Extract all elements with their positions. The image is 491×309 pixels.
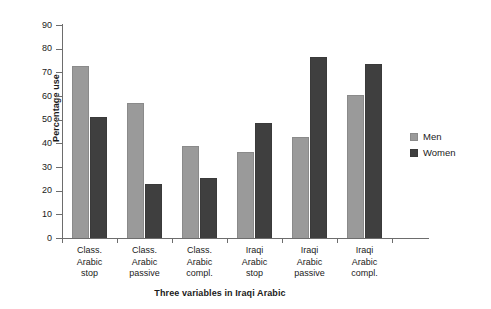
x-axis-category-label: IraqiArabiccompl. [333,245,397,280]
y-axis-tick-label: 90 [26,21,52,30]
y-axis-tick-label: 40 [26,139,52,148]
legend-swatch-men-icon [410,133,418,141]
x-axis-tick [62,238,63,243]
bar-men-6 [347,95,364,238]
bar-chart-figure: Percentage use 9080706050403020100 Class… [0,0,491,309]
y-axis-tick-label: 10 [26,210,52,219]
legend-swatch-women-icon [410,149,418,157]
legend-item-men: Men [410,129,456,145]
chart-legend: Men Women [410,129,456,161]
category-label-line: Iraqi [333,245,397,257]
bar-men-5 [292,137,309,238]
legend-label-men: Men [423,132,441,142]
y-axis-tick-label: 60 [26,92,52,101]
category-label-line: compl. [333,268,397,280]
bar-women-1 [90,117,107,238]
legend-label-women: Women [423,148,456,158]
x-axis-tick [227,238,228,243]
x-axis-tick [337,238,338,243]
y-axis-tick-label: 50 [26,115,52,124]
category-label-line: Arabic [333,257,397,269]
y-axis-tick-label: 0 [26,234,52,243]
bar-women-2 [145,184,162,238]
x-axis-tick [392,238,393,243]
y-axis-title: Percentage use [51,53,61,163]
plot-area [62,25,392,238]
bar-women-6 [365,64,382,238]
bar-men-2 [127,103,144,238]
bar-men-1 [72,66,89,238]
x-axis-title: Three variables in Iraqi Arabic [0,288,440,298]
x-axis-tick [117,238,118,243]
bar-men-3 [182,146,199,238]
y-axis-tick-label: 30 [26,163,52,172]
x-axis-tick [282,238,283,243]
bar-women-3 [200,178,217,238]
bar-men-4 [237,152,254,238]
bar-women-5 [310,57,327,238]
y-axis-tick-label: 70 [26,68,52,77]
y-axis-tick-label: 80 [26,44,52,53]
legend-item-women: Women [410,145,456,161]
x-axis-tick [172,238,173,243]
y-axis-tick-label: 20 [26,186,52,195]
bar-women-4 [255,123,272,238]
